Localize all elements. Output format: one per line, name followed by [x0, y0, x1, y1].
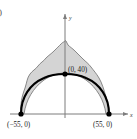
left-endpoint-label: (−55, 0): [7, 121, 31, 129]
left-endpoint-dot: [18, 111, 23, 116]
x-axis-label: x: [129, 112, 133, 118]
right-endpoint-label: (55, 0): [93, 121, 113, 129]
y-axis-label: y: [68, 15, 72, 21]
arch-diagram-svg: y x (0, 40) (−55, 0) (55, 0) ): [0, 0, 137, 139]
x-axis-arrowhead: [123, 112, 128, 116]
apex-point-label: (0, 40): [68, 66, 88, 74]
right-endpoint-dot: [106, 111, 111, 116]
y-axis-arrowhead: [63, 14, 67, 19]
figure-container: y x (0, 40) (−55, 0) (55, 0) ): [0, 0, 137, 139]
corner-mark: ): [0, 7, 2, 17]
apex-point-dot: [62, 71, 67, 76]
